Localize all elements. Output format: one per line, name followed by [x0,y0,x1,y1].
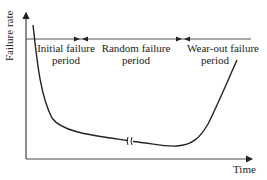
boundary-arrow-random-left [82,37,88,42]
bathtub-curve-diagram [0,0,267,180]
boundary-arrow-wearout-left [184,37,190,42]
random-period-label-line1: Random failure [96,42,176,54]
boundary-arrow-initial-right [74,37,80,42]
wearout-period-label-line1: Wear-out failure [181,42,265,54]
y-axis-label: Failure rate [3,11,15,61]
wearout-period-label-line2: period [195,54,235,66]
x-axis-label: Time [233,163,256,175]
boundary-arrow-random-right [176,37,182,42]
initial-period-label-line1: Initial failure [30,42,102,54]
random-period-label-line2: period [96,54,176,66]
initial-period-label-line2: period [30,54,102,66]
